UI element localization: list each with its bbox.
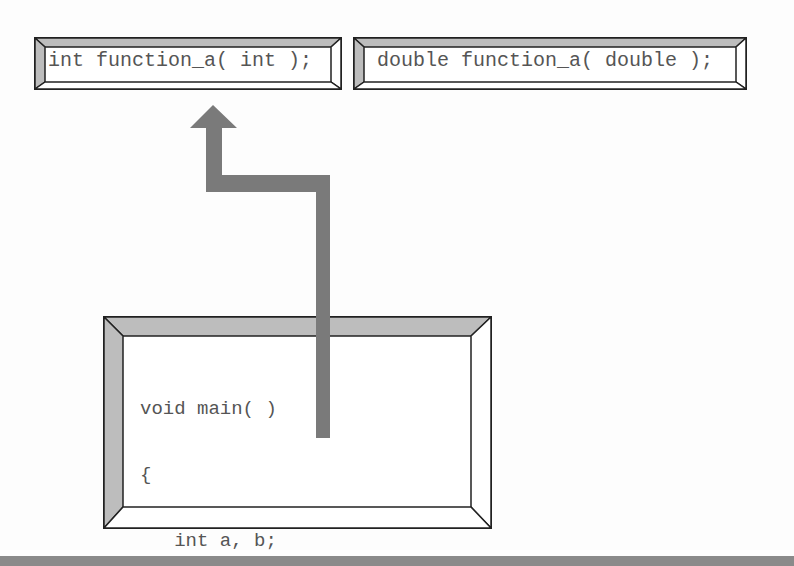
arrow-up-icon — [190, 105, 330, 438]
bottom-rule — [0, 556, 794, 566]
call-resolution-arrow — [0, 0, 794, 566]
